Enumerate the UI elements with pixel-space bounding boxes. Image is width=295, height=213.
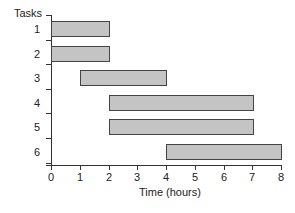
- x-tick-label: 3: [130, 171, 144, 183]
- x-tick-label: 6: [217, 171, 231, 183]
- y-axis-line: [51, 15, 52, 166]
- x-tick-label: 0: [44, 171, 58, 183]
- y-axis-label: Tasks: [14, 7, 42, 19]
- y-tick-label: 3: [26, 72, 40, 84]
- x-tick-mark: [281, 165, 282, 170]
- x-tick-mark: [80, 165, 81, 170]
- y-tick-mark: [46, 163, 51, 164]
- y-tick-mark: [46, 89, 51, 90]
- task-bar-6: [166, 144, 282, 160]
- y-tick-label: 6: [26, 146, 40, 158]
- y-tick-mark: [46, 138, 51, 139]
- x-axis-label: Time (hours): [139, 186, 201, 198]
- x-tick-label: 5: [188, 171, 202, 183]
- x-tick-label: 2: [102, 171, 116, 183]
- x-tick-mark: [166, 165, 167, 170]
- task-bar-4: [109, 95, 254, 111]
- y-tick-label: 4: [26, 97, 40, 109]
- y-tick-mark: [46, 15, 51, 16]
- y-tick-mark: [46, 40, 51, 41]
- x-tick-mark: [109, 165, 110, 170]
- y-tick-mark: [46, 64, 51, 65]
- x-tick-label: 4: [159, 171, 173, 183]
- x-tick-label: 1: [73, 171, 87, 183]
- x-axis-line: [46, 165, 282, 166]
- x-tick-mark: [224, 165, 225, 170]
- task-bar-3: [80, 70, 167, 86]
- x-tick-mark: [252, 165, 253, 170]
- y-tick-label: 5: [26, 121, 40, 133]
- x-tick-label: 8: [274, 171, 288, 183]
- x-tick-label: 7: [245, 171, 259, 183]
- x-tick-mark: [51, 165, 52, 170]
- y-tick-label: 2: [26, 48, 40, 60]
- x-tick-mark: [195, 165, 196, 170]
- task-bar-5: [109, 119, 254, 135]
- y-tick-label: 1: [26, 23, 40, 35]
- task-bar-2: [51, 46, 110, 62]
- x-tick-mark: [137, 165, 138, 170]
- y-tick-mark: [46, 113, 51, 114]
- task-bar-1: [51, 21, 110, 37]
